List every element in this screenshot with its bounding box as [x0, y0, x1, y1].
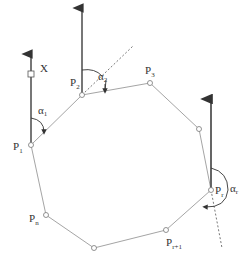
vector-pr [211, 99, 222, 248]
vertex-p4 [197, 127, 202, 132]
label-alphar: αr [230, 182, 239, 196]
x-axis-vector-p1 [28, 54, 34, 145]
angle-arc-alpha1 [31, 118, 44, 132]
vector-p2 [82, 8, 133, 95]
polygon-direction-diagram: X P1 P2 P3 Pr Pr+1 Pn α1 α2 αr [0, 0, 251, 262]
vertex-p3 [148, 81, 153, 86]
square-marker [28, 71, 34, 77]
polygon [31, 83, 211, 248]
label-p3: P3 [145, 64, 155, 79]
vertex-pr [209, 188, 214, 193]
label-p1: P1 [13, 140, 23, 155]
label-pr: Pr [215, 184, 224, 199]
vertex-p1 [29, 143, 34, 148]
vertex-bottom [92, 246, 97, 251]
vertices [29, 81, 214, 251]
label-p2: P2 [70, 76, 80, 91]
vertex-p2 [80, 93, 85, 98]
label-alpha1: α1 [38, 104, 48, 118]
label-pn: Pn [29, 212, 39, 227]
x-axis-label: X [40, 62, 48, 74]
label-pr1: Pr+1 [166, 236, 182, 251]
vertex-pn [44, 213, 49, 218]
vertex-pr1 [164, 228, 169, 233]
